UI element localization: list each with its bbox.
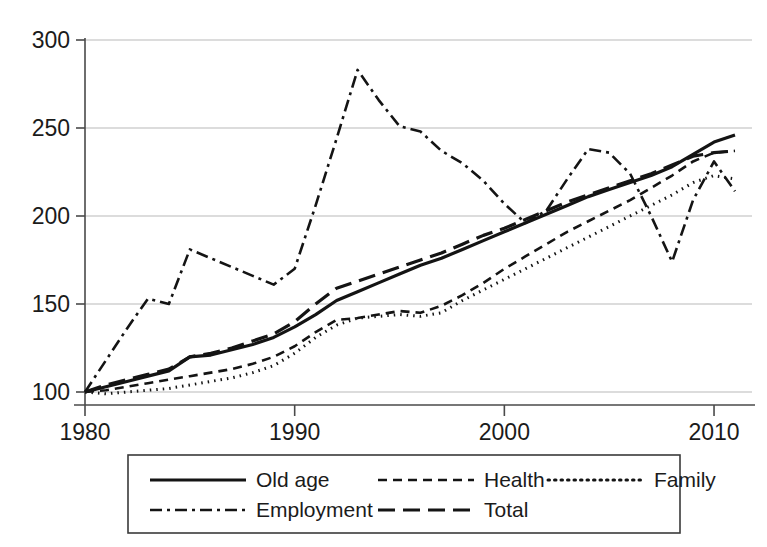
legend-label-family: Family [654,468,716,491]
chart-legend: Old ageHealthFamilyEmploymentTotal [128,455,716,533]
y-tick-labels: 100150200250300 [32,27,70,405]
line-chart: 100150200250300 1980199020002010 Old age… [0,0,767,547]
legend-label-employment: Employment [256,498,373,521]
x-tick-label: 2000 [479,419,530,445]
y-tick-label: 300 [32,27,70,53]
series-line-employment [85,70,735,392]
y-tick-label: 150 [32,291,70,317]
x-tick-labels: 1980199020002010 [59,419,739,445]
x-axis [74,405,755,416]
legend-label-total: Total [484,498,528,521]
data-series-group [85,70,735,394]
y-tick-label: 100 [32,379,70,405]
x-tick-label: 2010 [688,419,739,445]
y-tick-label: 200 [32,203,70,229]
legend-border [128,455,680,533]
y-tick-label: 250 [32,115,70,141]
x-tick-label: 1980 [59,419,110,445]
legend-label-health: Health [484,468,545,491]
chart-figure: 100150200250300 1980199020002010 Old age… [0,0,767,547]
y-axis [76,38,85,405]
gridlines [85,40,752,392]
x-tick-label: 1990 [269,419,320,445]
legend-label-old-age: Old age [256,468,330,491]
